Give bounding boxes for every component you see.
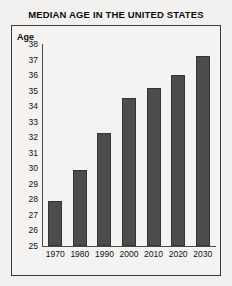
y-tick-label: 38 [29, 40, 38, 49]
x-tick-label: 2000 [116, 249, 142, 259]
bar-slot [196, 44, 210, 246]
chart-page: MEDIAN AGE IN THE UNITED STATES Age 2526… [0, 0, 232, 286]
x-tick-label: 2020 [165, 249, 191, 259]
y-tick-label: 37 [29, 55, 38, 64]
y-tick-label: 33 [29, 117, 38, 126]
bars-layer [43, 44, 215, 246]
x-tick-label: 1990 [91, 249, 117, 259]
bar-slot [122, 44, 136, 246]
bar-slot [48, 44, 62, 246]
bar[interactable] [48, 201, 62, 246]
bar-slot [147, 44, 161, 246]
bar-slot [171, 44, 185, 246]
bar[interactable] [73, 170, 87, 246]
chart-title: MEDIAN AGE IN THE UNITED STATES [0, 9, 232, 20]
y-axis-tick-labels: 2526272829303132333435363738 [12, 26, 42, 277]
y-tick-label: 30 [29, 164, 38, 173]
bar-slot [97, 44, 111, 246]
y-tick-label: 25 [29, 242, 38, 251]
bar[interactable] [196, 56, 210, 246]
y-tick-label: 27 [29, 211, 38, 220]
y-tick-label: 26 [29, 226, 38, 235]
y-tick-label: 31 [29, 149, 38, 158]
x-tick-label: 1980 [67, 249, 93, 259]
x-axis-tick-labels: 1970198019902000201020202030 [43, 249, 215, 263]
chart-frame: Age 2526272829303132333435363738 1970198… [11, 25, 221, 276]
bar[interactable] [122, 98, 136, 246]
y-tick-label: 29 [29, 180, 38, 189]
bar[interactable] [171, 75, 185, 246]
y-tick-label: 36 [29, 71, 38, 80]
x-tick-label: 2010 [141, 249, 167, 259]
y-tick-label: 35 [29, 86, 38, 95]
x-tick-label: 2030 [190, 249, 216, 259]
y-tick-label: 28 [29, 195, 38, 204]
y-tick-label: 32 [29, 133, 38, 142]
plot-area: Age 2526272829303132333435363738 1970198… [12, 26, 222, 277]
bar-slot [73, 44, 87, 246]
bar[interactable] [97, 133, 111, 246]
x-tick-label: 1970 [42, 249, 68, 259]
y-tick-label: 34 [29, 102, 38, 111]
bar[interactable] [147, 88, 161, 246]
